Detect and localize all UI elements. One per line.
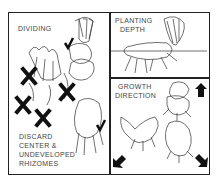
illustration-frame: DIVIDING DISCARD CENTER & UNDEVELOPED RH…	[8, 12, 210, 175]
checkmark-icon	[65, 38, 105, 130]
cross-icon	[17, 69, 73, 125]
arrow-icon	[113, 83, 208, 168]
fan-leaves-icon	[169, 82, 189, 99]
rhizome-illustration	[9, 13, 211, 176]
fan-leaves-icon	[75, 17, 93, 42]
